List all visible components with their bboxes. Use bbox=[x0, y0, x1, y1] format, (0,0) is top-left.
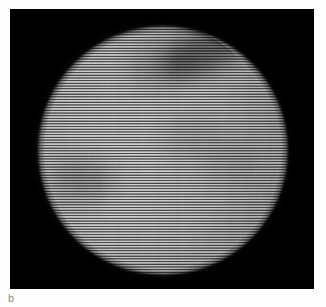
figure-root: b bbox=[0, 0, 326, 307]
solar-disk bbox=[38, 26, 288, 275]
image-panel bbox=[10, 9, 314, 289]
panel-label: b bbox=[8, 291, 48, 305]
disk-wrapper bbox=[10, 9, 314, 289]
